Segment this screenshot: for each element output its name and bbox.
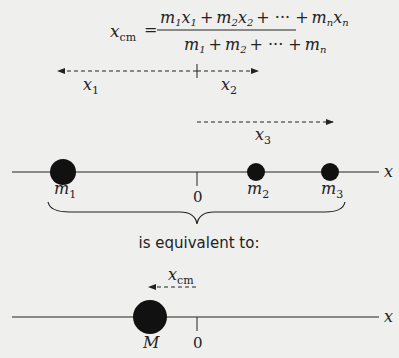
origin-label: 0 — [193, 188, 203, 206]
label-x3: x3 — [255, 125, 271, 147]
displacement-arrows-x1-x2: x1 x2 — [58, 64, 258, 97]
axis-label-x: x — [384, 307, 393, 326]
displacement-arrow-xcm: xcm — [149, 265, 196, 287]
origin-label: 0 — [193, 334, 203, 352]
formula-denominator: m1+m2+ ··· +mn — [184, 35, 326, 55]
total-mass-M-circle — [133, 300, 167, 334]
axis-label-x: x — [384, 162, 393, 181]
formula-numerator: m1x1+m2x2+ ··· +mnxn — [160, 8, 349, 28]
label-m1: m1 — [54, 179, 76, 201]
label-xcm: xcm — [168, 265, 194, 287]
label-m3: m3 — [321, 179, 343, 201]
label-x1: x1 — [83, 75, 99, 97]
svg-text:=: = — [144, 20, 157, 39]
label-M: M — [142, 333, 160, 352]
center-of-mass-diagram: xcm = m1x1+m2x2+ ··· +mnxn m1+m2+ ··· +m… — [0, 0, 399, 358]
label-m2: m2 — [247, 179, 269, 201]
cm-formula: xcm = m1x1+m2x2+ ··· +mnxn m1+m2+ ··· +m… — [110, 8, 349, 55]
axis-bottom: x 0 M — [12, 300, 393, 352]
axis-top: x 0 m1 m2 m3 — [12, 159, 393, 206]
caption-is-equivalent-to: is equivalent to: — [139, 234, 260, 252]
displacement-arrow-x3: x3 — [197, 122, 333, 147]
label-x2: x2 — [221, 75, 237, 97]
svg-text:m1x1+m2x2+ ··· +mnxn: m1x1+m2x2+ ··· +mnxn — [160, 8, 349, 28]
svg-text:m1+m2+ ··· +mn: m1+m2+ ··· +mn — [184, 35, 326, 55]
svg-text:xcm: xcm — [110, 21, 137, 44]
